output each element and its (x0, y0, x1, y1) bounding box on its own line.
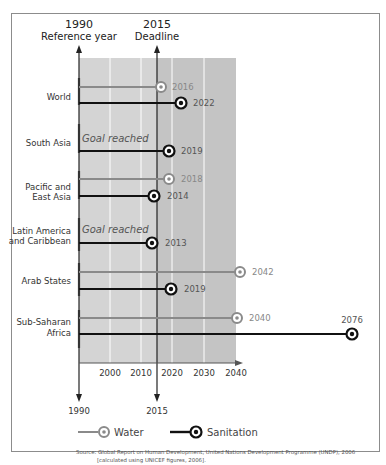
row-label-line2: East Asia (32, 192, 71, 202)
timeline-chart: 1990 Reference year 2015 Deadline World … (0, 0, 386, 465)
water-value: 2042 (252, 267, 274, 277)
svg-text:2010: 2010 (130, 368, 152, 378)
arrow-down-icon (76, 394, 82, 402)
water-value: 2016 (172, 82, 194, 92)
sanitation-value: 2076 (341, 315, 363, 325)
svg-text:2000: 2000 (99, 368, 121, 378)
legend-water: Water (114, 427, 144, 438)
deadline-year: 2015 (143, 18, 171, 31)
arrow-up-icon (76, 45, 82, 53)
row-label: Arab States (21, 276, 71, 286)
ref-year-label: Reference year (41, 31, 118, 42)
row-label: Pacific and (25, 182, 71, 192)
water-value: 2040 (249, 313, 271, 323)
arrow-right-icon (235, 360, 243, 366)
ref-year: 1990 (65, 18, 93, 31)
svg-text:2030: 2030 (193, 368, 215, 378)
legend: Water Sanitation (78, 427, 258, 439)
row-label: South Asia (26, 138, 71, 148)
row-label-line2: and Caribbean (9, 236, 71, 246)
svg-text:2040: 2040 (225, 368, 247, 378)
sanitation-value: 2013 (165, 238, 187, 248)
legend-sanitation: Sanitation (207, 427, 258, 438)
sanitation-value: 2019 (184, 284, 206, 294)
arrow-down-icon (154, 394, 160, 402)
sanitation-value: 2019 (181, 146, 203, 156)
row-label: Sub-Saharan (16, 317, 71, 327)
deadline-year-label: 2015 (146, 406, 168, 416)
row-label-line2: Africa (47, 328, 71, 338)
row-label: Latin America (12, 226, 71, 236)
row-label: World (47, 92, 71, 102)
water-value: 2018 (181, 174, 203, 184)
arrow-up-icon (154, 45, 160, 53)
svg-text:Source: Global Report on Human: Source: Global Report on Human Developme… (76, 449, 356, 456)
deadline-label: Deadline (135, 31, 179, 42)
sanitation-value: 2022 (193, 98, 215, 108)
svg-text:2020: 2020 (161, 368, 183, 378)
source-note: Source: Global Report on Human Developme… (76, 449, 356, 464)
goal-reached-annotation: Goal reached (82, 133, 149, 144)
sanitation-value: 2014 (167, 191, 189, 201)
goal-reached-annotation: Goal reached (82, 224, 149, 235)
svg-text:[calculated using UNICEF figur: [calculated using UNICEF figures, 2006]. (97, 457, 206, 464)
start-year-label: 1990 (68, 406, 90, 416)
